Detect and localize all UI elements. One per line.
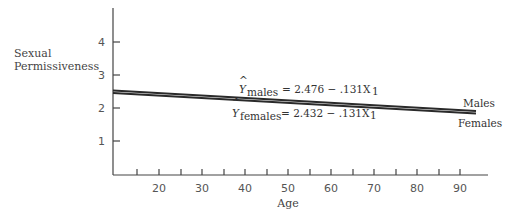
svg-text:males: males: [247, 86, 278, 98]
x-tick-label-60: 60: [324, 182, 338, 195]
series-label-females: Females: [458, 117, 502, 129]
equation-females: Y ^ females = 2.432 − .131X 1: [232, 96, 377, 122]
y-tick-label-1: 1: [98, 135, 105, 148]
svg-text:1: 1: [372, 85, 379, 97]
x-tick-label-40: 40: [238, 182, 252, 195]
series-label-males: Males: [463, 97, 495, 109]
svg-text:Y: Y: [232, 107, 240, 119]
svg-text:= 2.476 − .131X: = 2.476 − .131X: [282, 83, 371, 95]
x-tick-label-80: 80: [410, 182, 424, 195]
y-tick-label-4: 4: [98, 36, 105, 49]
x-tick-label-70: 70: [367, 182, 381, 195]
equation-males: Y ^ males = 2.476 − .131X 1: [239, 74, 379, 98]
svg-text:= 2.432 − .131X: = 2.432 − .131X: [281, 107, 370, 119]
svg-text:1: 1: [370, 109, 377, 121]
x-ticks: [137, 169, 460, 175]
x-tick-label-90: 90: [453, 182, 467, 195]
svg-text:females: females: [240, 110, 281, 122]
hat-icon: ^: [232, 96, 241, 108]
x-tick-label-30: 30: [195, 182, 209, 195]
x-tick-label-20: 20: [152, 182, 166, 195]
x-tick-label-50: 50: [281, 182, 295, 195]
x-axis-label: Age: [276, 197, 299, 210]
chart-canvas: 4 3 2 1 20 30 40 50 60 70 80 90 Age Y ^ …: [0, 0, 511, 221]
y-tick-label-3: 3: [98, 69, 105, 82]
hat-icon: ^: [239, 74, 248, 86]
y-tick-label-2: 2: [98, 102, 105, 115]
